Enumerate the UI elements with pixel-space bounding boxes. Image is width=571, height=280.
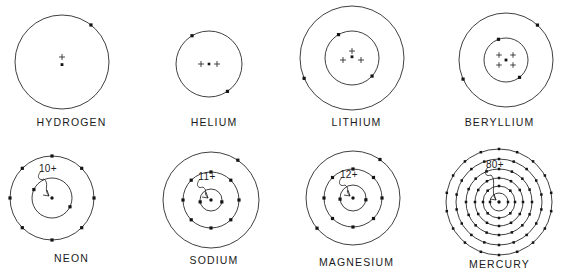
- electron: [510, 222, 513, 225]
- electron: [498, 244, 501, 247]
- electron: [528, 213, 531, 216]
- electron: [521, 177, 524, 180]
- electron: [446, 210, 449, 213]
- electron: [474, 224, 477, 227]
- electron: [237, 198, 240, 201]
- electron: [540, 193, 543, 196]
- electron: [467, 188, 470, 191]
- electron: [464, 160, 467, 163]
- electron: [498, 225, 501, 228]
- electron: [516, 151, 519, 154]
- electron: [498, 217, 501, 220]
- electron: [380, 196, 383, 199]
- nucleus-charge-label: 10+: [39, 163, 57, 174]
- electron: [455, 193, 458, 196]
- electron: [470, 234, 473, 237]
- electron: [209, 170, 212, 173]
- electron: [50, 238, 53, 241]
- atom-label-lithium: LITHIUM: [285, 116, 428, 128]
- electron: [364, 198, 367, 201]
- electron: [337, 33, 340, 36]
- electron: [470, 168, 473, 171]
- electron: [92, 196, 95, 199]
- nucleus-center-dot: [497, 200, 500, 203]
- electron: [544, 174, 547, 177]
- electron: [461, 78, 464, 81]
- electron: [509, 189, 512, 192]
- electron: [498, 148, 501, 151]
- electron: [89, 23, 92, 26]
- electron: [80, 226, 83, 229]
- atom-label-magnesium: MAGNESIUM: [285, 256, 428, 268]
- electron: [489, 201, 492, 204]
- electron: [209, 226, 212, 229]
- electron: [322, 196, 325, 199]
- electron: [483, 241, 486, 244]
- electron: [480, 251, 483, 254]
- electron: [303, 77, 306, 80]
- electron: [509, 212, 512, 215]
- electron: [226, 90, 229, 93]
- electron: [229, 179, 232, 182]
- electron: [535, 179, 538, 182]
- electron: [461, 179, 464, 182]
- electron: [351, 167, 354, 170]
- atom-diagram-magnesium: 12+MAGNESIUM: [285, 140, 428, 280]
- atom-diagram-sheet: HYDROGENHELIUMLITHIUMBERYLLIUM10+NEON11+…: [0, 0, 571, 280]
- electron: [550, 192, 553, 195]
- electron: [465, 201, 468, 204]
- electron: [532, 160, 535, 163]
- atom-diagram-neon: 10+NEON: [0, 140, 143, 280]
- electron: [477, 189, 480, 192]
- nucleus-center-dot: [505, 59, 508, 62]
- electron: [461, 222, 464, 225]
- electron: [498, 158, 501, 161]
- electron: [452, 174, 455, 177]
- electron: [519, 189, 522, 192]
- electron: [372, 217, 375, 220]
- electron: [464, 241, 467, 244]
- electron: [511, 170, 513, 173]
- electron: [512, 160, 515, 163]
- electron: [370, 74, 373, 77]
- electron: [32, 188, 35, 191]
- electron: [483, 160, 486, 163]
- electron: [181, 198, 184, 201]
- electron: [518, 76, 521, 79]
- electron: [190, 218, 193, 221]
- electron: [486, 212, 489, 215]
- atom-diagram-hydrogen: HYDROGEN: [0, 0, 143, 140]
- electron: [550, 210, 553, 213]
- electron: [525, 234, 528, 237]
- electron: [535, 222, 538, 225]
- atom-label-sodium: SODIUM: [143, 254, 285, 266]
- nucleus-center-dot: [209, 198, 212, 201]
- electron: [199, 200, 202, 203]
- electron: [480, 151, 483, 154]
- electron: [498, 177, 501, 180]
- electron: [514, 201, 517, 204]
- electron-shell: [15, 15, 109, 109]
- electron: [531, 201, 534, 204]
- electron: [378, 158, 381, 161]
- electron: [467, 214, 470, 217]
- electron: [482, 201, 485, 204]
- electron: [236, 159, 239, 162]
- nucleus-charge-label: 80+: [486, 159, 504, 170]
- electron: [511, 231, 513, 234]
- atom-diagram-mercury: 80+MERCURY: [428, 140, 571, 280]
- electron: [486, 222, 489, 225]
- electron: [485, 170, 488, 172]
- electron: [497, 38, 500, 41]
- electron: [510, 180, 513, 183]
- electron: [50, 154, 53, 157]
- electron: [486, 189, 489, 192]
- nucleus-charge-label: 11+: [198, 171, 215, 182]
- electron: [486, 180, 489, 183]
- electron: [455, 208, 458, 211]
- atom-diagram-lithium: LITHIUM: [285, 0, 428, 140]
- atom-label-helium: HELIUM: [143, 116, 285, 128]
- electron: [519, 213, 522, 216]
- electron: [229, 218, 232, 221]
- atom-diagram-sodium: 11+SODIUM: [143, 140, 285, 280]
